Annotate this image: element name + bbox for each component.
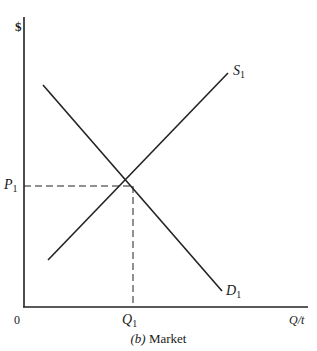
price-label: P1 xyxy=(4,178,18,192)
demand-subscript: 1 xyxy=(236,289,241,300)
price-name: P xyxy=(4,177,13,192)
supply-curve xyxy=(48,73,228,260)
origin-label: 0 xyxy=(14,314,20,326)
figure-caption: (b) Market xyxy=(0,331,317,347)
quantity-name: Q xyxy=(122,312,132,327)
quantity-subscript: 1 xyxy=(132,318,137,329)
caption-text: Market xyxy=(149,331,187,346)
supply-curve-label: S1 xyxy=(233,64,245,78)
caption-prefix: (b) xyxy=(131,331,146,346)
supply-name: S xyxy=(233,63,240,78)
demand-name: D xyxy=(226,283,236,298)
quantity-label: Q1 xyxy=(122,313,137,327)
x-axis-label: Q/t xyxy=(289,314,304,326)
price-subscript: 1 xyxy=(13,183,18,194)
y-axis-label: $ xyxy=(15,20,22,33)
diagram-canvas xyxy=(0,0,317,351)
demand-curve-label: D1 xyxy=(226,284,241,298)
supply-subscript: 1 xyxy=(240,69,245,80)
